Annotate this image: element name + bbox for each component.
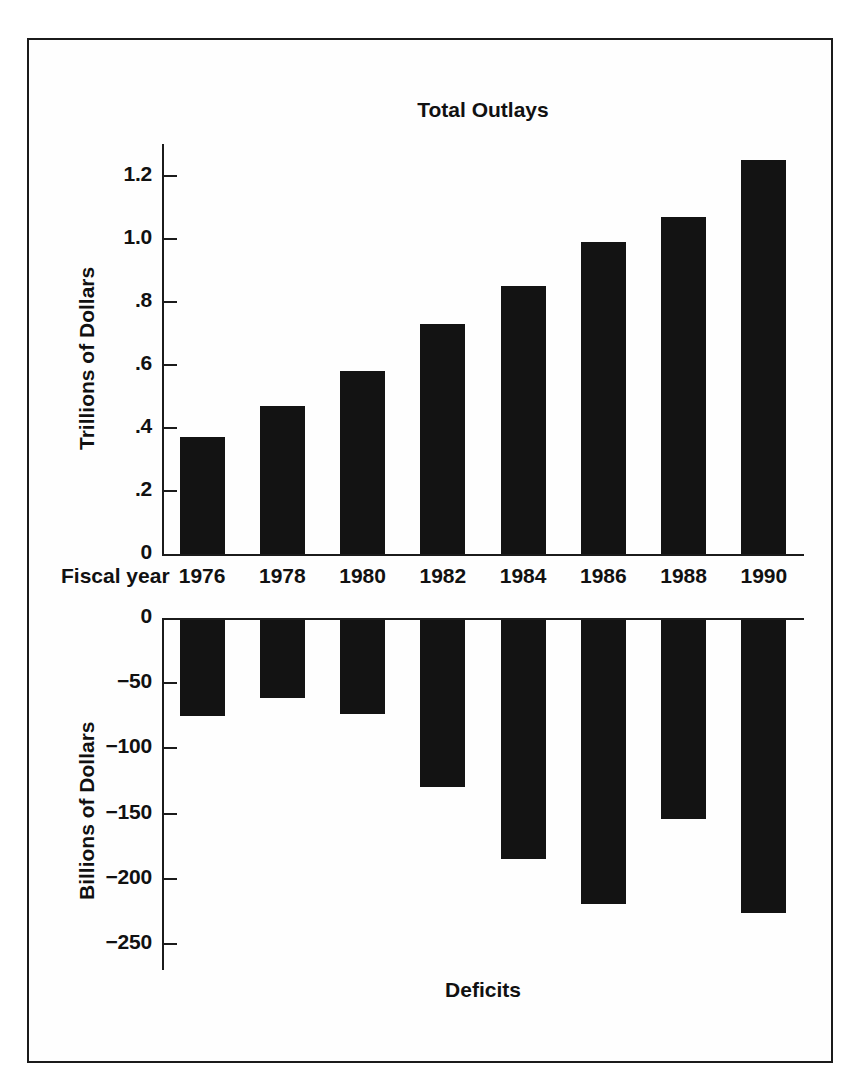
figure-frame: Total Outlays Trillions of Dollars 1.21.…: [27, 38, 833, 1063]
bottom-panel-bar: [661, 620, 706, 819]
bottom-panel-y-tick: [164, 747, 177, 749]
top-panel-x-axis: [162, 554, 804, 556]
bottom-panel-y-tick: [164, 682, 177, 684]
top-panel-y-tick-label: .2: [64, 477, 152, 501]
top-panel-y-axis: [162, 144, 164, 554]
top-panel-y-tick-label: .8: [64, 288, 152, 312]
top-panel-y-tick-label: 1.2: [64, 162, 152, 186]
top-panel-bar: [180, 437, 225, 554]
bottom-panel-y-axis: [162, 618, 164, 970]
top-panel-bar: [420, 324, 465, 554]
bottom-panel-bar: [581, 620, 626, 904]
bottom-panel-y-tick-label: −250: [44, 930, 152, 954]
top-panel-bar: [340, 371, 385, 554]
bottom-panel-bar: [501, 620, 546, 859]
bottom-panel-y-tick-label: −50: [44, 669, 152, 693]
top-panel-y-tick: [164, 364, 177, 366]
top-panel-y-tick-label: .4: [64, 414, 152, 438]
top-panel-y-tick-label: 0: [64, 540, 152, 564]
top-panel-bar: [661, 217, 706, 554]
bottom-panel-y-tick-label: −200: [44, 865, 152, 889]
bottom-panel-y-tick: [164, 813, 177, 815]
top-panel-y-tick: [164, 238, 177, 240]
bottom-panel-bar: [741, 620, 786, 913]
bottom-panel-title: Deficits: [333, 978, 633, 1002]
bottom-panel-bar: [340, 620, 385, 714]
bottom-panel-y-tick-label: −100: [44, 734, 152, 758]
top-panel-y-tick-label: .6: [64, 351, 152, 375]
top-panel-bar: [741, 160, 786, 554]
bottom-panel-y-tick: [164, 943, 177, 945]
bottom-panel-y-tick: [164, 878, 177, 880]
top-panel-title: Total Outlays: [333, 98, 633, 122]
bottom-panel-bar: [420, 620, 465, 787]
bottom-panel-y-tick-label: −150: [44, 800, 152, 824]
bottom-panel-zero-line: [162, 618, 804, 620]
bottom-panel-bar: [180, 620, 225, 716]
top-panel-bar: [501, 286, 546, 554]
top-panel-bar: [581, 242, 626, 554]
top-panel-y-tick-label: 1.0: [64, 225, 152, 249]
top-panel-y-tick: [164, 301, 177, 303]
bottom-panel-bar: [260, 620, 305, 698]
fiscal-year-tick-label: 1990: [714, 564, 814, 588]
top-panel-y-tick: [164, 490, 177, 492]
top-panel-y-tick: [164, 427, 177, 429]
top-panel-y-tick: [164, 175, 177, 177]
bottom-panel-y-tick-label: 0: [44, 604, 152, 628]
top-panel-bar: [260, 406, 305, 554]
